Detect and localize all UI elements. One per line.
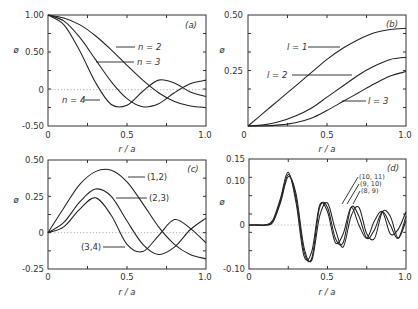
ytick-label: 1.00 <box>25 10 44 20</box>
xtick-label: 1.0 <box>398 272 412 282</box>
xtick-label: 1.0 <box>198 130 212 140</box>
ytick-label: 0 <box>39 85 44 95</box>
ticks <box>48 160 206 269</box>
ticks <box>48 15 206 126</box>
annotation-12: (1,2) <box>147 172 167 182</box>
ytick-label: -0.25 <box>22 264 44 274</box>
panel-c: 0.50 0.25 0 -0.25 0 0.5 1.0 r / a ø (c) … <box>12 155 211 297</box>
plot-frame <box>48 15 206 126</box>
panel-a: 1.00 0.50 0 -0.50 0 0.5 1.0 r / a ø (a) … <box>12 10 211 154</box>
curves <box>48 15 206 108</box>
annotation-l3: l = 3 <box>368 96 388 106</box>
curve-series <box>48 198 206 252</box>
annotation-arrow <box>347 184 359 204</box>
x-axis-label: r / a <box>319 287 336 297</box>
panel-label: (d) <box>387 163 399 173</box>
xtick-label: 0 <box>246 272 251 282</box>
y-axis-label: ø <box>12 45 19 55</box>
ytick-label: -0.10 <box>223 264 245 274</box>
ytick-label: -0.50 <box>22 121 44 131</box>
ytick-label: 0.50 <box>224 10 243 20</box>
xtick-label: 0.5 <box>120 130 134 140</box>
x-axis-label: r / a <box>119 144 136 154</box>
panel-b: 0.50 0.25 0 0.5 1.0 r / a ø (b) l = 1 l … <box>218 10 411 154</box>
curve-series <box>249 176 406 261</box>
annotation-l1: l = 1 <box>287 42 307 52</box>
annotation-34: (3,4) <box>81 242 101 252</box>
ytick-label: 0.15 <box>226 154 245 164</box>
xtick-label: 0.5 <box>120 272 134 282</box>
ytick-label: 0.25 <box>224 66 243 76</box>
ytick-label: 0.10 <box>226 176 245 186</box>
curve-series <box>48 169 206 259</box>
xtick-label: 0 <box>45 130 50 140</box>
panel-label: (c) <box>187 164 198 174</box>
annotation-n2: n = 2 <box>138 42 161 52</box>
ytick-label: 0.25 <box>25 192 44 202</box>
x-axis-label: r / a <box>319 144 336 154</box>
annotation-n3: n = 3 <box>137 57 160 67</box>
annotation-l2: l = 2 <box>267 70 287 80</box>
ytick-label: 0 <box>240 220 245 230</box>
x-axis-label: r / a <box>119 287 136 297</box>
annotation-23: (2,3) <box>149 193 169 203</box>
xtick-label: 1.0 <box>398 130 412 140</box>
ytick-label: 0.50 <box>25 47 44 57</box>
panel-d: 0.15 0.10 0 -0.10 0 0.5 1.0 r / a ø (d) … <box>218 154 411 297</box>
annotation-8-9: (8, 9) <box>361 187 378 195</box>
curve-series <box>248 57 406 126</box>
panel-label: (a) <box>185 20 197 30</box>
curves <box>48 169 206 259</box>
y-axis-label: ø <box>12 195 19 205</box>
y-axis-label: ø <box>218 45 225 55</box>
y-axis-label: ø <box>218 197 225 207</box>
curve-series <box>249 174 406 261</box>
panel-label: (b) <box>386 19 398 29</box>
figure: 1.00 0.50 0 -0.50 0 0.5 1.0 r / a ø (a) … <box>0 0 418 309</box>
curve-series <box>249 172 406 260</box>
xtick-label: 0.5 <box>320 130 334 140</box>
xtick-label: 0 <box>45 272 50 282</box>
xtick-label: 1.0 <box>198 272 212 282</box>
ytick-label: 0.50 <box>25 155 44 165</box>
plot-frame <box>48 160 206 269</box>
xtick-label: 0.5 <box>320 272 334 282</box>
curves <box>249 172 406 262</box>
ytick-label: 0 <box>39 228 44 238</box>
annotation-n4: n = 4 <box>62 95 85 105</box>
curve-series <box>48 15 206 107</box>
xtick-label: 0 <box>241 130 246 140</box>
